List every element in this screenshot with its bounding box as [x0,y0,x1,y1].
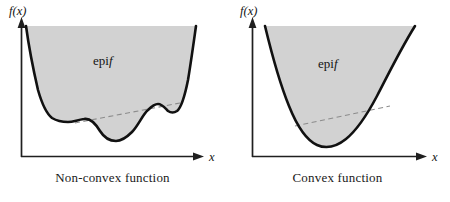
non-convex-plot: f(x) x epif [0,0,225,172]
y-axis-label: f(x) [240,4,257,18]
y-axis-arrow-icon [18,17,26,28]
caption-non-convex: Non-convex function [0,170,225,186]
panel-non-convex: f(x) x epif Non-convex function [0,0,225,202]
x-axis-arrow-icon [416,153,427,161]
x-axis-label: x [431,150,438,164]
epigraph-label-prefix: epi [318,56,334,71]
epigraph-region-convex [265,26,415,147]
epigraph-label-prefix: epi [93,53,109,68]
figure-container: f(x) x epif Non-convex function f(x [0,0,450,202]
epigraph-label: epif [93,53,115,68]
convex-plot: f(x) x epif [225,0,450,172]
y-axis-label: f(x) [9,4,26,18]
x-axis-arrow-icon [193,153,204,161]
epigraph-region-non-convex [26,26,196,141]
epigraph-label: epif [318,56,340,71]
panel-convex: f(x) x epif Convex function [225,0,450,202]
caption-convex: Convex function [225,170,450,186]
y-axis-arrow-icon [249,17,257,28]
x-axis-label: x [208,150,215,164]
